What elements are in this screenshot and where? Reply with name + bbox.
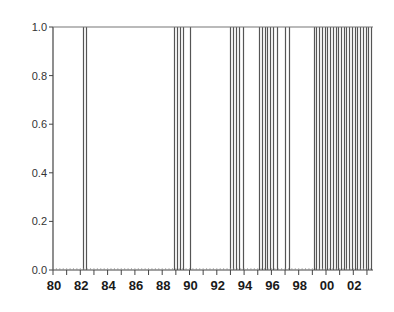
x-tick-label: 92 <box>211 278 225 293</box>
spike-lines <box>84 27 372 270</box>
y-tick-label: 0.6 <box>32 118 47 130</box>
y-tick-label: 0.4 <box>32 167 47 179</box>
y-tick-label: 1.0 <box>32 21 47 33</box>
x-tick-label: 90 <box>183 278 197 293</box>
y-tick-label: 0.2 <box>32 215 47 227</box>
x-tick-label: 80 <box>47 278 61 293</box>
x-tick-label: 88 <box>156 278 170 293</box>
indicator-chart: 0.00.20.40.60.81.0 808284868890929496980… <box>0 0 394 312</box>
x-tick-label: 98 <box>292 278 306 293</box>
x-tick-label: 00 <box>320 278 334 293</box>
x-tick-label: 96 <box>265 278 279 293</box>
x-tick-label: 94 <box>238 278 253 293</box>
x-axis-ticks: 808284868890929496980002 <box>47 268 371 293</box>
x-tick-label: 82 <box>74 278 88 293</box>
x-tick-label: 86 <box>129 278 143 293</box>
x-tick-label: 84 <box>101 278 116 293</box>
y-tick-label: 0.0 <box>32 264 47 276</box>
y-axis-ticks: 0.00.20.40.60.81.0 <box>32 21 53 276</box>
x-tick-label: 02 <box>347 278 361 293</box>
y-tick-label: 0.8 <box>32 70 47 82</box>
